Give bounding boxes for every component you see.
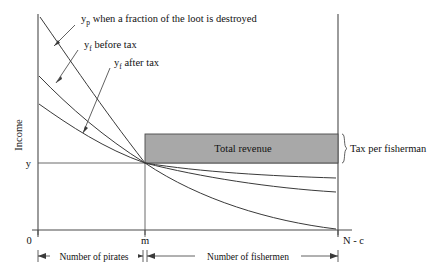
tax-per-fisherman-label: Tax per fisherman [350, 143, 427, 154]
curve-label-fisher-before: yf before tax [84, 39, 137, 53]
y-value-label: y [26, 158, 32, 169]
curve-label-pirates-rest: when a fraction of the loot is destroyed [90, 13, 258, 24]
arrowhead-pirates-left [38, 253, 46, 259]
tax-bracket [342, 134, 347, 163]
arrowhead-fisher-before [56, 76, 62, 83]
arrowhead-fisher-after [83, 126, 88, 133]
arrowhead-fishermen-right [330, 253, 338, 259]
y-axis-title: Income [13, 119, 24, 151]
curve-label-fisher-after-rest: after tax [122, 57, 160, 68]
bracket-label-fishermen: Number of fishermen [207, 252, 289, 262]
n-minus-c-label: N - c [343, 235, 364, 246]
curve-label-pirates: yp when a fraction of the loot is destro… [81, 13, 258, 27]
curve-label-fisher-after: yf after tax [114, 57, 160, 71]
curve-label-fisher-before-rest: before tax [92, 39, 138, 50]
economics-figure: Income y 0 m N - c yp when a fraction of… [0, 0, 435, 271]
total-revenue-label: Total revenue [214, 143, 272, 154]
arrowhead-fishermen-left [147, 253, 155, 259]
origin-label: 0 [26, 235, 31, 246]
m-label: m [141, 235, 149, 246]
leader-fisher-after [83, 68, 110, 133]
bracket-label-pirates: Number of pirates [59, 252, 128, 262]
figure-svg: Income y 0 m N - c yp when a fraction of… [0, 0, 435, 271]
